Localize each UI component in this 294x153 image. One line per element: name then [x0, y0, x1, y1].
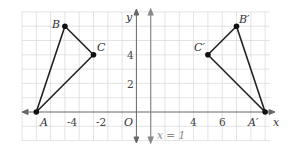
point-c-prime	[205, 52, 211, 58]
y-axis	[134, 9, 139, 143]
coordinate-plane: A B C A′ B′ C′ y x O -4 -2 4 6 2 4 x = 1	[0, 0, 294, 153]
y-axis-label: y	[125, 11, 133, 24]
y-tick-2: 2	[127, 78, 134, 90]
x-tick-neg2: -2	[96, 116, 106, 128]
origin-label: O	[124, 116, 133, 129]
label-c-prime: C′	[194, 41, 205, 54]
grid	[22, 12, 270, 141]
reflection-line	[148, 9, 153, 143]
label-c: C	[97, 41, 106, 54]
point-a-prime	[262, 109, 268, 115]
y-tick-4: 4	[127, 49, 134, 61]
label-a-prime: A′	[247, 116, 259, 129]
point-a	[34, 109, 40, 115]
point-c	[91, 52, 97, 58]
label-b: B	[51, 18, 60, 31]
reflection-line-label: x = 1	[157, 129, 185, 141]
x-tick-neg4: -4	[67, 116, 78, 128]
x-tick-4: 4	[190, 116, 197, 128]
point-b	[62, 23, 68, 29]
label-a: A	[39, 116, 48, 129]
x-tick-6: 6	[219, 116, 226, 128]
label-b-prime: B′	[238, 13, 250, 26]
x-axis-label: x	[273, 116, 280, 129]
x-axis	[22, 110, 275, 115]
